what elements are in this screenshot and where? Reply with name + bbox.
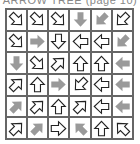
arrow-up-left-icon <box>114 120 131 137</box>
arrow-left-icon <box>114 76 131 93</box>
arrow-down-left-icon <box>114 11 131 28</box>
grid-cell[interactable] <box>91 74 112 96</box>
arrow-up-right-icon <box>72 98 89 115</box>
grid-cell[interactable] <box>69 117 90 139</box>
arrow-up-icon <box>93 120 110 137</box>
arrow-down-right-icon <box>50 11 67 28</box>
grid-cell[interactable] <box>27 96 48 118</box>
grid-cell[interactable] <box>48 96 69 118</box>
arrow-up-icon <box>72 55 89 72</box>
arrow-right-icon <box>50 120 67 137</box>
arrow-down-right-icon <box>8 33 25 50</box>
grid-cell[interactable] <box>48 9 69 31</box>
arrow-up-icon <box>50 98 67 115</box>
arrow-down-left-icon <box>93 11 110 28</box>
grid-cell[interactable] <box>69 9 90 31</box>
arrow-down-right-icon <box>29 55 46 72</box>
arrow-right-icon <box>29 33 46 50</box>
arrow-up-icon <box>93 55 110 72</box>
arrow-down-right-icon <box>8 11 25 28</box>
grid-cell[interactable] <box>48 52 69 74</box>
grid-cell[interactable] <box>6 31 27 53</box>
arrow-up-right-icon <box>29 98 46 115</box>
grid-cell[interactable] <box>91 52 112 74</box>
arrow-left-icon <box>72 33 89 50</box>
grid-cell[interactable] <box>112 96 133 118</box>
grid-cell[interactable] <box>6 96 27 118</box>
arrow-up-right-icon <box>8 120 25 137</box>
grid-cell[interactable] <box>6 52 27 74</box>
arrow-down-right-icon <box>29 11 46 28</box>
arrow-left-icon <box>114 55 131 72</box>
grid-cell[interactable] <box>112 52 133 74</box>
grid-cell[interactable] <box>6 74 27 96</box>
grid-cell[interactable] <box>69 74 90 96</box>
grid-cell[interactable] <box>91 9 112 31</box>
arrow-left-icon <box>93 98 110 115</box>
puzzle-title: ARROW TREE (page 10) <box>0 0 140 6</box>
arrow-up-left-icon <box>72 120 89 137</box>
grid-cell[interactable] <box>112 117 133 139</box>
arrow-left-icon <box>93 76 110 93</box>
arrow-down-left-icon <box>72 76 89 93</box>
grid-cell[interactable] <box>6 9 27 31</box>
grid-cell[interactable] <box>91 96 112 118</box>
grid-cell[interactable] <box>112 74 133 96</box>
arrow-up-right-icon <box>8 98 25 115</box>
grid-cell[interactable] <box>48 74 69 96</box>
arrow-down-icon <box>8 55 25 72</box>
arrow-down-icon <box>50 33 67 50</box>
grid-cell[interactable] <box>91 31 112 53</box>
grid-cell[interactable] <box>6 117 27 139</box>
arrow-up-right-icon <box>50 55 67 72</box>
grid-cell[interactable] <box>69 31 90 53</box>
arrow-down-icon <box>72 11 89 28</box>
arrow-up-icon <box>29 76 46 93</box>
grid-cell[interactable] <box>112 9 133 31</box>
grid-cell[interactable] <box>27 52 48 74</box>
arrow-left-icon <box>93 33 110 50</box>
grid-cell[interactable] <box>69 52 90 74</box>
grid-cell[interactable] <box>27 74 48 96</box>
grid-cell[interactable] <box>91 117 112 139</box>
grid-cell[interactable] <box>27 31 48 53</box>
arrow-right-icon <box>50 76 67 93</box>
arrow-grid <box>5 8 134 140</box>
arrow-left-icon <box>114 98 131 115</box>
arrow-down-left-icon <box>114 33 131 50</box>
grid-cell[interactable] <box>27 9 48 31</box>
grid-cell[interactable] <box>69 96 90 118</box>
grid-cell[interactable] <box>48 117 69 139</box>
grid-cell[interactable] <box>112 31 133 53</box>
arrow-up-right-icon <box>8 76 25 93</box>
grid-cell[interactable] <box>27 117 48 139</box>
grid-cell[interactable] <box>48 31 69 53</box>
arrow-up-right-icon <box>29 120 46 137</box>
